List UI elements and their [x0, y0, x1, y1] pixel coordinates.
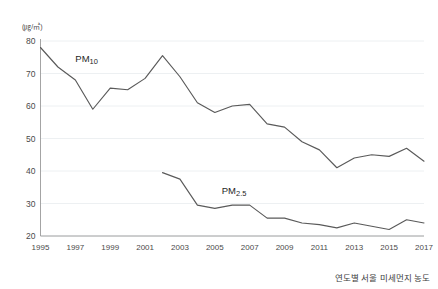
chart-figure: 20304050607080 1995199719992001200320052… — [0, 0, 438, 289]
pm-concentration-line-chart: 20304050607080 1995199719992001200320052… — [0, 0, 438, 289]
axis-group — [41, 39, 425, 236]
x-tick-1999: 1999 — [101, 243, 119, 252]
y-tick-20: 20 — [26, 231, 36, 241]
y-tick-40: 40 — [26, 166, 36, 176]
y-tick-70: 70 — [26, 69, 36, 79]
x-tick-1995: 1995 — [32, 243, 50, 252]
x-tick-2011: 2011 — [311, 243, 329, 252]
x-tick-1997: 1997 — [66, 243, 84, 252]
series-label-PM2.5: PM2.5 — [222, 185, 247, 198]
x-tick-2009: 2009 — [276, 243, 294, 252]
series-line-PM2.5 — [163, 173, 424, 230]
y-tick-30: 30 — [26, 199, 36, 209]
y-tick-80: 80 — [26, 36, 36, 46]
x-tick-2013: 2013 — [345, 243, 363, 252]
y-tick-50: 50 — [26, 134, 36, 144]
y-axis-unit-label: (㎍/㎥) — [22, 22, 43, 32]
x-tick-2001: 2001 — [136, 243, 154, 252]
x-tick-2015: 2015 — [380, 243, 398, 252]
x-tick-2003: 2003 — [171, 243, 189, 252]
chart-caption: 연도별 서울 미세먼지 농도 — [335, 271, 430, 283]
series-line-PM10 — [41, 48, 425, 168]
series-annotation-group: PM10PM2.5 — [75, 53, 246, 198]
y-axis-tick-labels: 20304050607080 — [26, 36, 36, 241]
x-tick-2007: 2007 — [241, 243, 259, 252]
x-tick-2005: 2005 — [206, 243, 224, 252]
x-axis-tick-labels: 1995199719992001200320052007200920112013… — [32, 243, 434, 252]
gridline-group — [41, 41, 425, 236]
y-tick-60: 60 — [26, 101, 36, 111]
x-tick-2017: 2017 — [415, 243, 433, 252]
series-label-PM10: PM10 — [75, 53, 98, 66]
